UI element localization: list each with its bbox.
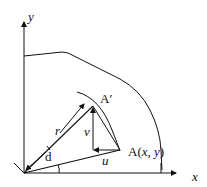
- d-label: d: [45, 150, 52, 163]
- x-axis-label: x: [192, 170, 198, 183]
- rotation-arc: [77, 92, 120, 151]
- v-label: v: [84, 125, 90, 138]
- chord-a-a-prime: [93, 106, 120, 150]
- y-axis-label: y: [28, 10, 34, 23]
- rotation-diagram: y x A′ A(x, y) r v u d: [0, 0, 207, 187]
- u-label: u: [102, 154, 109, 167]
- r-label: r: [55, 124, 60, 137]
- point-a-prime-label: A′: [100, 92, 112, 105]
- point-a-label: A(x, y): [128, 145, 164, 158]
